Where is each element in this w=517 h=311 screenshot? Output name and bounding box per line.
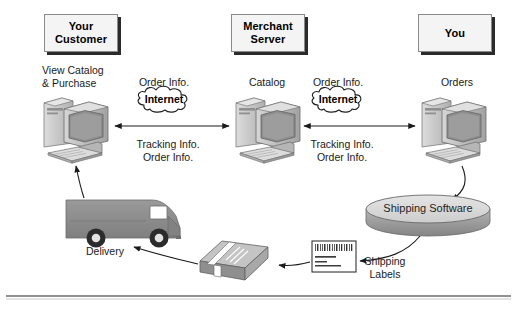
delivery-truck-shape	[66, 200, 181, 248]
caption-delivery: Delivery	[70, 245, 140, 258]
caption-order-info-right: Order Info.	[292, 76, 384, 89]
connector-package-to-truck	[134, 247, 198, 264]
customer-computer	[44, 98, 108, 163]
shipping-label-shape	[312, 241, 356, 272]
caption-order-info-left: Order Info.	[118, 76, 210, 89]
connector-truck-to-customer	[76, 166, 84, 198]
caption-tracking-order-info-right: Tracking Info. Order Info.	[292, 138, 392, 163]
connector-you-to-disc	[452, 166, 465, 200]
connector-label-to-package	[279, 262, 310, 266]
shipping-software-label: Shipping Software	[366, 202, 490, 214]
role-label-you: You	[445, 27, 465, 40]
merchant-server-computer	[236, 98, 300, 163]
diagram-canvas: Your Customer Merchant Server You View C…	[0, 0, 517, 311]
internet-cloud-left-label: Internet	[130, 93, 198, 105]
role-box-merchant-server[interactable]: Merchant Server	[231, 14, 305, 52]
caption-tracking-order-info-left: Tracking Info. Order Info.	[118, 138, 218, 163]
role-box-your-customer[interactable]: Your Customer	[44, 14, 118, 52]
your-computer	[422, 98, 486, 163]
role-label-merchant-server: Merchant Server	[243, 20, 293, 46]
internet-cloud-right-label: Internet	[304, 93, 372, 105]
footer-rule	[6, 296, 511, 299]
shipping-package-shape	[200, 241, 268, 280]
caption-orders: Orders	[412, 76, 502, 89]
caption-shipping-labels: Shipping Labels	[352, 255, 418, 280]
role-box-you[interactable]: You	[418, 14, 492, 52]
role-label-your-customer: Your Customer	[55, 20, 107, 46]
